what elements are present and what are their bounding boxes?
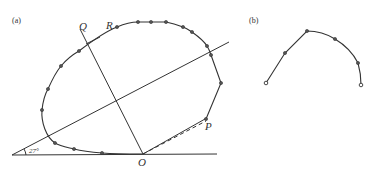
curve-points-a	[40, 20, 222, 154]
angle-arc	[24, 149, 26, 155]
point-p-label: P	[204, 120, 212, 132]
point-r-label: R	[105, 19, 113, 31]
dashed-segment-op	[143, 121, 206, 154]
panel-b-label: (b)	[249, 16, 259, 25]
angle-label: 27°	[29, 147, 39, 155]
closed-curve	[42, 22, 221, 154]
point-q-label: Q	[79, 20, 87, 32]
point-o-label: O	[138, 156, 146, 168]
curve-points-b	[264, 29, 363, 86]
open-curve	[266, 31, 361, 85]
panel-a-label: (a)	[12, 16, 21, 25]
figure-canvas: (a) Q R P O 27° (b)	[0, 0, 379, 175]
